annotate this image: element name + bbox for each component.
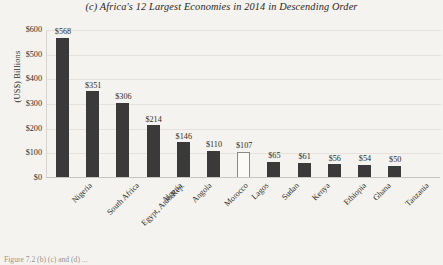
x-axis-category-label: Nigeria bbox=[70, 181, 94, 205]
y-axis-tick-label: $200 bbox=[2, 124, 42, 133]
bar-slot: $110 bbox=[199, 30, 229, 178]
bar[interactable] bbox=[298, 163, 311, 178]
x-axis-category-label: Sudan bbox=[280, 181, 301, 202]
cutoff-caption: Figure 7.2 (b) (c) and (d) ... bbox=[4, 255, 324, 265]
x-axis-category-label: Angola bbox=[190, 181, 213, 204]
bar-slot: $351 bbox=[78, 30, 108, 178]
bar-slot: $306 bbox=[108, 30, 138, 178]
bar[interactable] bbox=[86, 91, 99, 178]
bar[interactable] bbox=[328, 164, 341, 178]
x-axis-category-label: Kenya bbox=[310, 181, 331, 202]
y-axis-tick-label: $100 bbox=[2, 148, 42, 157]
bar[interactable] bbox=[177, 142, 190, 178]
y-axis-tick-label: $0 bbox=[2, 173, 42, 182]
bar-slot: $568 bbox=[48, 30, 78, 178]
bar[interactable] bbox=[358, 165, 371, 178]
y-axis-tick-label: $500 bbox=[2, 50, 42, 59]
gridline bbox=[47, 178, 441, 179]
bar-slot: $146 bbox=[169, 30, 199, 178]
bar[interactable] bbox=[237, 152, 250, 178]
plot-area: $568$351$306$214$146$110$107$65$61$56$54… bbox=[46, 30, 440, 178]
x-axis-category-label: South Africa bbox=[105, 181, 141, 217]
bar-slot: $214 bbox=[139, 30, 169, 178]
x-axis-category-label: Ethiopia bbox=[342, 181, 368, 207]
x-axis-category-label: Lagos bbox=[250, 181, 271, 202]
x-axis-category-label: Ghana bbox=[371, 181, 392, 202]
y-axis-tick-label: $300 bbox=[2, 99, 42, 108]
bar[interactable] bbox=[56, 38, 69, 178]
bar[interactable] bbox=[116, 103, 129, 178]
x-axis-line bbox=[46, 177, 440, 178]
bar-slot: $50 bbox=[380, 30, 410, 178]
x-axis-category-label: Tanzania bbox=[403, 181, 430, 208]
bar[interactable] bbox=[147, 125, 160, 178]
y-axis-tick-label: $600 bbox=[2, 25, 42, 34]
bar-value-label: $50 bbox=[372, 155, 418, 164]
bar[interactable] bbox=[267, 162, 280, 178]
x-axis-category-label: Morocco bbox=[222, 181, 249, 208]
y-axis-tick-label: $400 bbox=[2, 74, 42, 83]
bar[interactable] bbox=[207, 151, 220, 178]
chart-title: (c) Africa's 12 Largest Economies in 201… bbox=[0, 1, 443, 12]
